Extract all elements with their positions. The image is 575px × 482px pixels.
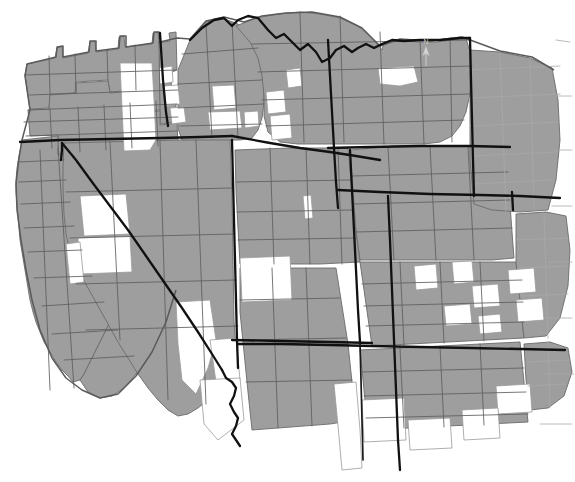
- county-choropleth-map: Western United States County Choropleth …: [0, 0, 575, 482]
- unselected-county-colorado-east-b: [444, 304, 472, 326]
- plains-fringe-north: [470, 50, 560, 212]
- map-container: Western United States County Choropleth …: [0, 0, 575, 482]
- state-border-nv-ca-vertical: [61, 143, 62, 160]
- unselected-county-idaho-west-c: [170, 107, 186, 124]
- unselected-county-idaho-west-b: [164, 85, 180, 106]
- unselected-county-new-mexico-s: [408, 418, 452, 450]
- north-arrow-label: N: [423, 38, 428, 45]
- unselected-county-idaho-east-a: [266, 90, 286, 114]
- unselected-county-nevada-central: [78, 236, 132, 274]
- unselected-county-colorado-east-a: [472, 284, 500, 308]
- unselected-county-idaho-east-b: [270, 114, 292, 140]
- unselected-county-arizona-corridor: [334, 382, 362, 470]
- unselected-county-colorado-east-c: [478, 314, 502, 334]
- unselected-county-utah-central: [240, 256, 292, 302]
- unselected-county-plains-b: [516, 298, 544, 322]
- unselected-county-new-mexico-sw: [362, 398, 406, 442]
- unselected-county-utah-southwest-b: [200, 378, 244, 440]
- unselected-county-texas-west-b: [462, 408, 500, 440]
- unselected-county-montana-east: [378, 66, 418, 86]
- unselected-county-plains-a: [508, 268, 536, 294]
- unselected-county-idaho-central-c: [244, 111, 259, 128]
- unselected-county-colorado-central-b: [452, 261, 474, 284]
- unselected-county-texas-west-a: [496, 384, 532, 414]
- state-border-wy-ne: [512, 192, 513, 210]
- unselected-county-colorado-central: [414, 264, 438, 290]
- unselected-county-idaho-west-a: [159, 66, 173, 84]
